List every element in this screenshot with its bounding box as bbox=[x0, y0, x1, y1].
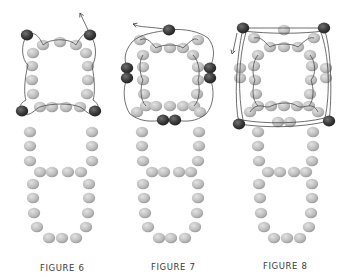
grey-bead bbox=[179, 233, 191, 243]
grey-bead bbox=[192, 179, 204, 189]
grey-bead bbox=[27, 48, 39, 58]
thread-path bbox=[80, 13, 88, 30]
grey-bead bbox=[173, 167, 185, 177]
figure-7-diagram bbox=[121, 23, 216, 243]
grey-bead bbox=[80, 48, 92, 58]
grey-bead bbox=[54, 37, 66, 47]
grey-bead bbox=[31, 222, 43, 232]
grey-bead bbox=[306, 156, 318, 166]
grey-bead bbox=[56, 233, 68, 243]
grey-bead bbox=[193, 141, 205, 151]
grey-bead bbox=[27, 89, 39, 99]
grey-bead bbox=[306, 179, 318, 189]
grey-bead bbox=[83, 193, 95, 203]
grey-bead bbox=[306, 193, 318, 203]
grey-bead bbox=[138, 193, 150, 203]
grey-bead bbox=[86, 156, 98, 166]
grey-bead bbox=[305, 208, 317, 218]
grey-bead bbox=[146, 167, 158, 177]
grey-bead bbox=[27, 179, 39, 189]
grey-bead bbox=[307, 141, 319, 151]
grey-bead bbox=[185, 167, 197, 177]
grey-bead bbox=[136, 127, 148, 137]
grey-bead bbox=[304, 89, 316, 99]
grey-bead bbox=[189, 222, 201, 232]
dark-bead bbox=[121, 73, 133, 84]
thread-path bbox=[125, 30, 169, 68]
grey-bead bbox=[255, 208, 267, 218]
dark-bead bbox=[89, 106, 101, 117]
grey-bead bbox=[253, 179, 265, 189]
dark-bead bbox=[318, 23, 330, 34]
grey-bead bbox=[82, 208, 94, 218]
dark-bead bbox=[233, 119, 245, 130]
grey-bead bbox=[274, 167, 286, 177]
grey-bead bbox=[278, 101, 290, 111]
grey-bead bbox=[70, 233, 82, 243]
thread-path bbox=[90, 35, 99, 116]
dark-bead bbox=[237, 23, 249, 34]
grey-bead bbox=[164, 101, 176, 111]
grey-bead bbox=[254, 193, 266, 203]
grey-bead bbox=[24, 156, 36, 166]
grey-bead bbox=[294, 233, 306, 243]
thread-path bbox=[175, 78, 213, 121]
grey-bead bbox=[83, 179, 95, 189]
grey-bead bbox=[136, 141, 148, 151]
grey-bead bbox=[272, 117, 284, 127]
beading-diagram bbox=[0, 0, 347, 279]
grey-bead bbox=[27, 193, 39, 203]
grey-bead bbox=[300, 167, 312, 177]
dark-bead bbox=[84, 30, 96, 41]
grey-bead bbox=[153, 233, 165, 243]
grey-bead bbox=[82, 75, 94, 85]
grey-bead bbox=[191, 89, 203, 99]
grey-bead bbox=[158, 167, 170, 177]
grey-bead bbox=[28, 208, 40, 218]
grey-bead bbox=[177, 101, 189, 111]
grey-bead bbox=[253, 156, 265, 166]
dark-bead bbox=[16, 106, 28, 117]
grey-bead bbox=[281, 233, 293, 243]
grey-bead bbox=[165, 233, 177, 243]
grey-bead bbox=[81, 89, 93, 99]
grey-bead bbox=[250, 89, 262, 99]
figure-6-diagram bbox=[16, 13, 101, 243]
grey-bead bbox=[86, 141, 98, 151]
grey-bead bbox=[252, 141, 264, 151]
grey-bead bbox=[191, 208, 203, 218]
grey-bead bbox=[60, 102, 72, 112]
grey-bead bbox=[137, 156, 149, 166]
grey-bead bbox=[288, 167, 300, 177]
grey-bead bbox=[303, 222, 315, 232]
grey-bead bbox=[307, 127, 319, 137]
grey-bead bbox=[46, 167, 58, 177]
dark-bead bbox=[204, 73, 216, 84]
dark-bead bbox=[121, 63, 133, 74]
dark-bead bbox=[169, 115, 181, 126]
grey-bead bbox=[43, 233, 55, 243]
thread-path bbox=[233, 33, 237, 52]
dark-bead bbox=[323, 116, 335, 127]
grey-bead bbox=[139, 208, 151, 218]
grey-bead bbox=[86, 127, 98, 137]
grey-bead bbox=[268, 233, 280, 243]
grey-bead bbox=[262, 167, 274, 177]
grey-bead bbox=[62, 167, 74, 177]
grey-bead bbox=[26, 75, 38, 85]
grey-bead bbox=[46, 102, 58, 112]
figure-6-caption: FIGURE 6 bbox=[40, 263, 84, 273]
dark-bead bbox=[163, 25, 175, 36]
figure-7-caption: FIGURE 7 bbox=[151, 262, 195, 272]
grey-bead bbox=[150, 101, 162, 111]
grey-bead bbox=[137, 62, 149, 72]
grey-bead bbox=[142, 222, 154, 232]
grey-bead bbox=[75, 167, 87, 177]
grey-bead bbox=[306, 61, 318, 71]
grey-bead bbox=[24, 141, 36, 151]
dark-bead bbox=[21, 30, 33, 41]
grey-bead bbox=[258, 222, 270, 232]
grey-bead bbox=[137, 179, 149, 189]
grey-bead bbox=[24, 127, 36, 137]
grey-bead bbox=[252, 127, 264, 137]
